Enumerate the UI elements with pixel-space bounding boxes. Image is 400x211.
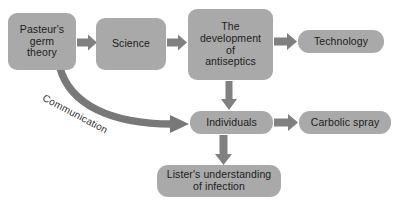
- node-antiseptics-line-1: The: [200, 21, 261, 33]
- node-antiseptics-line-4: antiseptics: [200, 56, 261, 68]
- edge-label-communication: Communication: [41, 92, 110, 136]
- diagram-canvas: Pasteur's germ theory Science The develo…: [0, 0, 400, 211]
- arrow-antiseptics-to-technology: [274, 33, 297, 50]
- node-individuals[interactable]: Individuals: [190, 111, 273, 134]
- node-science-label: Science: [112, 38, 150, 50]
- node-antiseptics-line-2: development: [200, 33, 261, 45]
- node-pasteur-line-3: theory: [20, 47, 64, 59]
- node-listers-understanding-of-infection[interactable]: Lister's understanding of infection: [157, 165, 281, 197]
- node-pasteur-line-1: Pasteur's: [20, 24, 64, 36]
- arrow-antiseptics-to-individuals: [221, 81, 237, 110]
- arrow-individuals-to-carbolic: [274, 114, 298, 131]
- node-carbolic-label: Carbolic spray: [311, 117, 380, 129]
- node-science[interactable]: Science: [96, 18, 166, 70]
- node-lister-line-2: of infection: [167, 181, 272, 193]
- node-carbolic-spray[interactable]: Carbolic spray: [299, 111, 391, 134]
- node-development-of-antiseptics[interactable]: The development of antiseptics: [188, 9, 273, 80]
- arrow-pasteur-to-individuals-curved: [60, 68, 189, 133]
- arrow-individuals-to-lister: [215, 135, 232, 165]
- node-technology-label: Technology: [314, 36, 368, 48]
- arrow-science-to-antiseptics: [167, 35, 187, 51]
- node-individuals-label: Individuals: [206, 117, 257, 129]
- arrow-pasteur-to-science: [77, 35, 97, 51]
- node-pasteur-germ-theory[interactable]: Pasteur's germ theory: [8, 13, 76, 70]
- node-technology[interactable]: Technology: [298, 30, 384, 53]
